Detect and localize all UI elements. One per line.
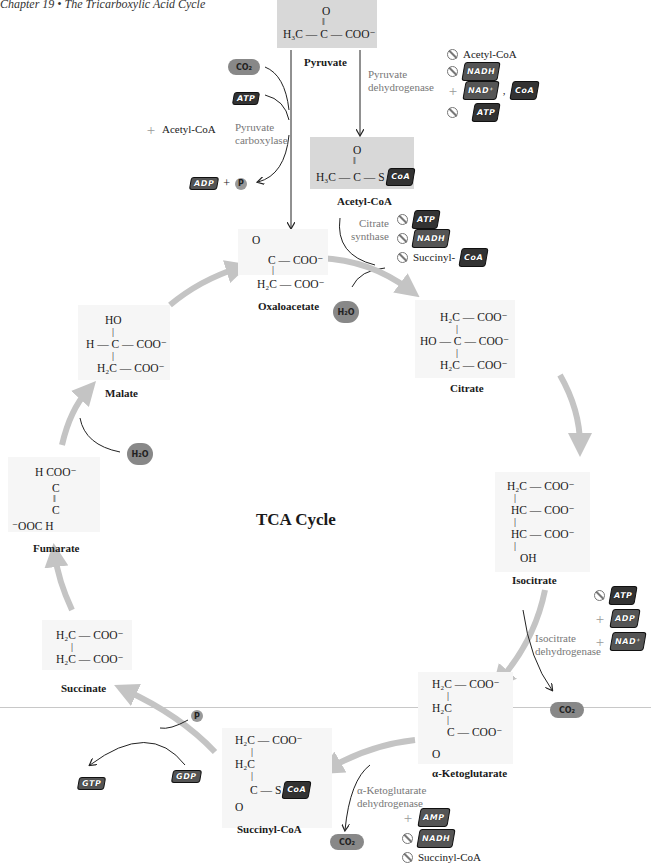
citrate-line1: H₂C — COO⁻ [440, 310, 508, 324]
h2o-molecule: H₂O [127, 443, 153, 465]
adp-badge: ADP [189, 177, 219, 190]
phosphate-icon: P [191, 710, 203, 722]
akgdh-regulators: +AMP NADH Succinyl-CoA [402, 808, 481, 865]
regulator-akgdh-nadh: NADH [402, 829, 481, 848]
isocitrate-label: Isocitrate [512, 574, 557, 586]
activator-plus-icon: + [402, 812, 414, 824]
oxaloacetate-line4: H₂C — COO⁻ [257, 277, 325, 291]
malate-line3: H — C — COO⁻ [86, 337, 167, 351]
inhibitor-icon [447, 49, 458, 60]
atp-input: ATP [233, 87, 259, 105]
inhibitor-icon [397, 233, 408, 244]
succinylcoa-line5: C — SCoA [250, 781, 310, 799]
activator-plus-icon: + [447, 85, 459, 97]
akg-line6: O [432, 747, 440, 761]
succinate-line1: H₂C — COO⁻ [56, 628, 124, 642]
fumarate-label: Fumarate [33, 542, 79, 554]
fumarate-line5: ⁻OOC H [12, 519, 54, 533]
fumarate-line4: C [52, 503, 60, 517]
atp-badge: ATP [232, 92, 261, 105]
succinylcoa-line6: O [235, 800, 243, 814]
co2-molecule: CO₂ [550, 702, 584, 718]
regulator-cs-atp: ATP [397, 210, 487, 229]
oxaloacetate-line2: C — COO⁻ [268, 253, 323, 267]
fumarate-line1: H COO⁻ [35, 465, 77, 479]
oxaloacetate-bond: | [272, 263, 274, 277]
regulator-pdh-acetylcoa: Acetyl-CoA [447, 47, 538, 62]
phosphate-icon: P [235, 178, 247, 190]
activator-plus-icon: + [145, 124, 157, 136]
gdp-input: GDP [172, 765, 201, 783]
inhibitor-icon [397, 214, 408, 225]
inhibitor-icon [447, 66, 458, 77]
regulator-idh-nad: +NAD⁺ [594, 632, 645, 651]
inhibitor-icon [397, 252, 408, 263]
regulator-pc-acetylcoa: + Acetyl-CoA [145, 122, 216, 137]
regulator-pdh-atp: ATP [447, 103, 538, 122]
idh-regulators: ATP +ADP +NAD⁺ [594, 586, 645, 651]
regulator-cs-nadh: NADH [397, 229, 487, 248]
akg-label: α-Ketoglutarate [432, 767, 507, 779]
pdh-regulators: Acetyl-CoA NADH +NAD⁺,CoA ATP [447, 47, 538, 122]
regulator-idh-adp: +ADP [594, 609, 645, 628]
isocitrate-line1: H₂C — COO⁻ [507, 479, 575, 493]
enzyme-akg-dehydrogenase: α-Ketoglutarate dehydrogenase [357, 784, 426, 810]
malate-line5: H₂C — COO⁻ [97, 361, 165, 375]
regulator-pdh-nadh: NADH [447, 62, 538, 81]
regulator-pdh-nad-coa: +NAD⁺,CoA [447, 81, 538, 100]
regulator-akgdh-amp: +AMP [402, 808, 481, 827]
isocitrate-line7: OH [520, 551, 537, 565]
akg-line5: C — COO⁻ [447, 725, 502, 739]
h2o-molecule: H₂O [333, 301, 359, 323]
succinate-label: Succinate [61, 682, 106, 694]
acetylcoa-label: Acetyl-CoA [337, 195, 392, 207]
co2-molecule: CO₂ [330, 834, 364, 850]
citrate-label: Citrate [450, 382, 484, 394]
acetylcoa-formula: H₃C — C — SCoA [316, 168, 414, 186]
adp-pi-products: ADP + P [190, 176, 247, 191]
inhibitor-icon [402, 833, 413, 844]
malate-label: Malate [105, 387, 138, 399]
inhibitor-icon [594, 590, 605, 601]
isocitrate-bond3: | [514, 539, 516, 553]
regulator-cs-succinylcoa: Succinyl-CoA [397, 248, 487, 267]
citrate-line3: HO — C — COO⁻ [420, 334, 509, 348]
isocitrate-line5: HC — COO⁻ [511, 527, 575, 541]
pyruvate-label: Pyruvate [304, 56, 347, 68]
oxaloacetate-o: O [252, 233, 260, 247]
isocitrate-line3: HC — COO⁻ [511, 503, 575, 517]
acetylcoa-double-bond: ‖ [353, 154, 356, 168]
co2-molecule: CO₂ [228, 59, 260, 75]
activator-plus-icon: + [594, 613, 606, 625]
inhibitor-icon [402, 852, 413, 863]
cs-regulators: ATP NADH Succinyl-CoA [397, 210, 487, 267]
enzyme-pyruvate-dehydrogenase: Pyruvate dehydrogenase [368, 68, 434, 94]
succinate-line3: H₂C — COO⁻ [56, 652, 124, 666]
enzyme-isocitrate-dehydrogenase: Isocitrate dehydrogenase [535, 632, 601, 658]
akg-line1: H₂C — COO⁻ [432, 677, 500, 691]
succinylcoa-label: Succinyl-CoA [237, 823, 302, 835]
pyruvate-formula: H₃C — C — COO⁻ [283, 27, 376, 41]
oxaloacetate-label: Oxaloacetate [258, 300, 319, 312]
inhibitor-icon [447, 107, 458, 118]
citrate-line5: H₂C — COO⁻ [440, 358, 508, 372]
enzyme-citrate-synthase: Citrate synthase [351, 217, 389, 243]
gtp-output: GTP [78, 772, 105, 790]
enzyme-pyruvate-carboxylase: Pyruvate carboxylase [235, 121, 288, 147]
regulator-idh-atp: ATP [594, 586, 645, 605]
succinylcoa-line1: H₂C — COO⁻ [235, 733, 303, 747]
regulator-akgdh-succinylcoa: Succinyl-CoA [402, 850, 481, 865]
cycle-title: TCA Cycle [256, 510, 336, 530]
